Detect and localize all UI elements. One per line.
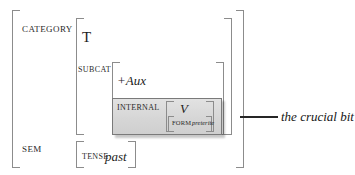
attribute-label-internal: INTERNAL <box>117 104 159 112</box>
attribute-label-subcat: SUBCAT <box>78 66 111 74</box>
value-subcat-head: +Aux <box>117 74 146 87</box>
value-category-head: T <box>82 30 91 45</box>
attribute-label-sem: SEM <box>22 145 42 154</box>
annotation-label: the crucial bit <box>281 110 354 123</box>
value-form-head: preterite <box>192 120 214 127</box>
attribute-label-form: FORM <box>172 120 191 127</box>
annotation-connector-line <box>240 116 278 118</box>
value-internal-head: V <box>180 102 188 115</box>
avm-diagram: CATEGORY T SUBCAT +Aux INTERNAL V FORM p… <box>0 0 355 175</box>
sem-bracket-right <box>126 141 136 168</box>
value-tense-head: past <box>105 150 127 163</box>
outer-bracket-right <box>230 10 244 168</box>
attribute-label-category: CATEGORY <box>22 25 73 34</box>
